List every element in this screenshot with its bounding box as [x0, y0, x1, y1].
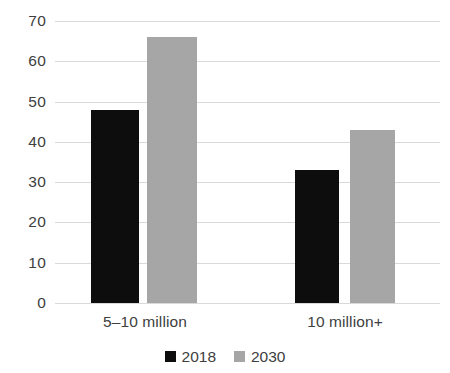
- bar-2030-5-10-million: [147, 37, 197, 303]
- legend-label: 2030: [251, 349, 285, 365]
- legend-item-2030: 2030: [234, 349, 285, 365]
- plot-area: [55, 21, 440, 303]
- gridline: [55, 61, 440, 62]
- x-axis-label-group-1: 5–10 million: [50, 314, 240, 330]
- bar-chart: 70 60 50 40 30 20 10 0 5–10 million 10 m…: [0, 0, 450, 373]
- x-axis-label-group-2: 10 million+: [255, 314, 435, 330]
- bar-2018-10-million-plus: [295, 170, 339, 303]
- legend-item-2018: 2018: [165, 349, 216, 365]
- bar-2018-5-10-million: [91, 110, 139, 303]
- chart-legend: 2018 2030: [0, 349, 450, 365]
- y-tick-label: 50: [2, 94, 46, 110]
- legend-swatch-icon: [234, 351, 245, 362]
- bar-2030-10-million-plus: [350, 130, 395, 303]
- gridline: [55, 102, 440, 103]
- y-tick-label: 10: [2, 255, 46, 271]
- y-tick-label: 0: [2, 295, 46, 311]
- axis-baseline: [55, 303, 440, 304]
- y-tick-label: 60: [2, 54, 46, 70]
- legend-swatch-icon: [165, 351, 176, 362]
- legend-label: 2018: [182, 349, 216, 365]
- y-tick-label: 70: [2, 13, 46, 29]
- y-axis-ticks: 70 60 50 40 30 20 10 0: [0, 21, 46, 303]
- gridline: [55, 21, 440, 22]
- y-tick-label: 40: [2, 134, 46, 150]
- y-tick-label: 20: [2, 215, 46, 231]
- y-tick-label: 30: [2, 174, 46, 190]
